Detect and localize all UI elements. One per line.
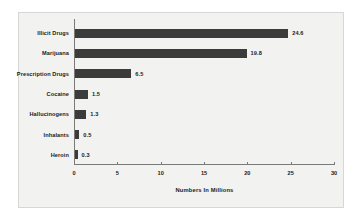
bar-row: 19.8: [75, 47, 335, 59]
x-tick-mark: [204, 162, 205, 165]
bar-value-label: 24.6: [292, 30, 303, 36]
bar: [75, 130, 79, 139]
bar: [75, 49, 247, 58]
x-axis-title: Numbers In Millions: [74, 187, 335, 193]
bar-value-label: 1.3: [90, 111, 98, 117]
x-tick-label: 20: [244, 170, 250, 176]
x-tick-mark: [247, 162, 248, 165]
bar-row: 24.6: [75, 27, 335, 39]
bar: [75, 110, 86, 119]
bar: [75, 69, 131, 78]
y-axis-category-labels: Illicit DrugsMarijuanaPrescription Drugs…: [19, 23, 73, 165]
bar-value-label: 0.3: [82, 152, 90, 158]
bar-value-label: 19.8: [251, 50, 262, 56]
bar-chart-figure: Illicit DrugsMarijuanaPrescription Drugs…: [18, 12, 344, 208]
x-tick-label: 10: [158, 170, 164, 176]
plot-area: 24.619.86.51.51.30.50.3 051015202530: [74, 23, 335, 165]
x-tick-mark: [74, 162, 75, 165]
category-label: Marijuana: [42, 50, 69, 56]
bar-row: 1.3: [75, 108, 335, 120]
bar: [75, 90, 88, 99]
bar: [75, 150, 78, 159]
x-tick-label: 30: [331, 170, 337, 176]
x-tick-label: 25: [288, 170, 294, 176]
bar-row: 1.5: [75, 88, 335, 100]
category-label: Prescription Drugs: [17, 71, 69, 77]
bar-value-label: 0.5: [83, 132, 91, 138]
category-label: Heroin: [51, 152, 69, 158]
category-label: Cocaine: [47, 91, 69, 97]
category-label: Hallucinogens: [29, 111, 69, 117]
x-tick-label: 0: [72, 170, 75, 176]
bar-row: 6.5: [75, 68, 335, 80]
x-tick-mark: [291, 162, 292, 165]
category-label: Inhalants: [44, 132, 69, 138]
bar-series: 24.619.86.51.51.30.50.3: [75, 23, 335, 165]
x-tick-mark: [334, 162, 335, 165]
bar-row: 0.5: [75, 129, 335, 141]
x-tick-mark: [161, 162, 162, 165]
bar-row: 0.3: [75, 149, 335, 161]
bar-value-label: 6.5: [135, 71, 143, 77]
bar: [75, 29, 288, 38]
x-tick-label: 5: [116, 170, 119, 176]
category-label: Illicit Drugs: [37, 30, 69, 36]
x-tick-mark: [117, 162, 118, 165]
bar-value-label: 1.5: [92, 91, 100, 97]
x-tick-label: 15: [201, 170, 207, 176]
